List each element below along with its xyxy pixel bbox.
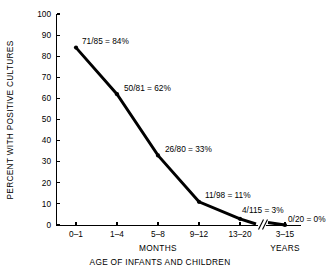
x-axis-title: AGE OF INFANTS AND CHILDREN (90, 257, 231, 267)
y-tick-label-10: 10 (42, 199, 52, 209)
x-tick-label-13-20: 13–20 (228, 229, 251, 239)
data-label-3-15: 0/20 = 0% (288, 214, 326, 224)
y-tick-label-40: 40 (42, 135, 52, 145)
y-tick-label-80: 80 (42, 51, 52, 61)
y-tick-label-0: 0 (46, 220, 51, 230)
line-chart: PERCENT WITH POSITIVE CULTURES 0 10 20 3… (0, 0, 333, 277)
y-tick-label-70: 70 (42, 72, 52, 82)
data-point-1-4 (115, 92, 119, 96)
data-point-9-12 (197, 200, 201, 204)
data-point-5-8 (156, 153, 160, 157)
data-label-1-4: 50/81 = 62% (124, 83, 171, 93)
x-group-label-years: YEARS (270, 243, 300, 253)
data-point-0-1 (74, 46, 78, 50)
y-axis-title: PERCENT WITH POSITIVE CULTURES (5, 40, 15, 199)
data-label-0-1: 71/85 = 84% (82, 36, 129, 46)
x-tick-label-1-4: 1–4 (110, 229, 124, 239)
x-tick-label-3-15: 3–15 (276, 229, 295, 239)
data-label-5-8: 26/80 = 33% (165, 144, 212, 154)
y-tick-label-30: 30 (42, 156, 52, 166)
data-point-13-20 (238, 217, 242, 221)
y-tick-label-90: 90 (42, 30, 52, 40)
data-point-3-15 (283, 223, 287, 227)
data-label-13-20: 4/115 = 3% (242, 205, 284, 215)
y-tick-label-100: 100 (37, 9, 51, 19)
y-tick-label-20: 20 (42, 178, 52, 188)
chart-container: PERCENT WITH POSITIVE CULTURES 0 10 20 3… (0, 0, 333, 277)
data-label-9-12: 11/98 = 11% (205, 190, 251, 200)
x-tick-label-9-12: 9–12 (190, 229, 209, 239)
data-line-years (268, 223, 285, 226)
x-tick-label-5-8: 5–8 (151, 229, 165, 239)
x-tick-label-0-1: 0–1 (69, 229, 83, 239)
y-tick-label-60: 60 (42, 93, 52, 103)
y-tick-label-50: 50 (42, 114, 52, 124)
x-group-label-months: MONTHS (139, 243, 177, 253)
